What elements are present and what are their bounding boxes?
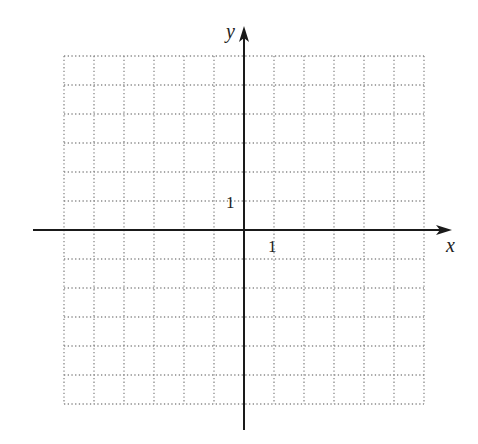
y-axis-label: y: [224, 20, 235, 43]
x-unit-tick-label: 1: [268, 237, 277, 256]
x-axis-label: x: [445, 234, 455, 256]
coordinate-plane: x y 1 1: [0, 0, 478, 444]
y-unit-tick-label: 1: [226, 193, 235, 212]
axes: [33, 26, 452, 430]
